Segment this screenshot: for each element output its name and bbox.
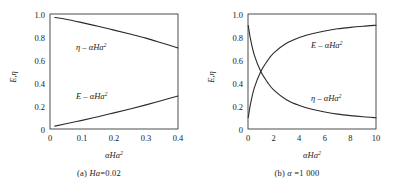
panel-b-label-eta-sup: 2 xyxy=(339,93,342,99)
panel-a-label-eta: η – αHa2 xyxy=(76,42,107,52)
panel-a-label-eta-base: η – αHa xyxy=(76,42,104,52)
panel-a-xtick-3: 0.3 xyxy=(141,133,152,143)
panel-a-ytick-4: 0.2 xyxy=(34,102,45,112)
panel-a-caption-prefix: (a) xyxy=(77,168,87,178)
panel-b-ytick-5: 0 xyxy=(239,125,243,135)
panel-a-curve-E xyxy=(55,96,178,126)
panel-b-caption-prefix: (b) xyxy=(275,168,286,178)
panel-a-ytick-5: 0 xyxy=(41,125,45,135)
panel-a-label-E-base: E – αHa xyxy=(75,91,105,101)
panel-b-frame xyxy=(248,14,376,129)
panel-a-xlabel-sup: 2 xyxy=(120,150,123,156)
panel-a-xlabel: αHa2 xyxy=(105,150,123,160)
panel-b-label-E-sup: 2 xyxy=(340,40,343,46)
panel-a-ylabel: E,η xyxy=(8,71,18,84)
panel-a-ytick-1: 0.8 xyxy=(34,33,45,43)
panel-a-label-E: E – αHa2 xyxy=(75,91,108,101)
panel-a-xtick-2: 0.2 xyxy=(109,133,120,143)
panel-b-xlabel-sup: 2 xyxy=(318,150,321,156)
panel-b-xlabel: αHa2 xyxy=(303,150,321,160)
panel-a-label-E-sup: 2 xyxy=(105,91,108,97)
panel-a-ytick-0: 1.0 xyxy=(34,10,45,20)
panel-b-ytick-1: 0.8 xyxy=(232,33,243,43)
panel-a: 1.0 0.8 0.6 0.4 0.2 0 0 0.1 0.2 0.3 0.4 … xyxy=(0,0,198,193)
panel-b-label-eta-base: η – αHa xyxy=(311,93,339,103)
panel-b-xtick-2: 4 xyxy=(297,133,302,143)
panel-a-xtick-4: 0.4 xyxy=(173,133,184,143)
panel-b-xtick-5: 10 xyxy=(372,133,381,143)
panel-b-label-E: E – αHa2 xyxy=(310,40,343,50)
panel-a-caption-symbol: Ha xyxy=(89,168,100,178)
panel-b-svg: 1.0 0.8 0.6 0.4 0.2 0 0 2 4 6 8 10 E,η α… xyxy=(198,0,396,165)
panel-b-xtick-0: 0 xyxy=(246,133,250,143)
panel-a-svg: 1.0 0.8 0.6 0.4 0.2 0 0 0.1 0.2 0.3 0.4 … xyxy=(0,0,198,165)
figure-container: 1.0 0.8 0.6 0.4 0.2 0 0 0.1 0.2 0.3 0.4 … xyxy=(0,0,396,193)
panel-b-label-eta: η – αHa2 xyxy=(311,93,342,103)
panel-b-plot: 1.0 0.8 0.6 0.4 0.2 0 0 2 4 6 8 10 E,η α… xyxy=(198,0,396,165)
panel-a-label-eta-sup: 2 xyxy=(104,42,107,48)
panel-b-xtick-1: 2 xyxy=(271,133,275,143)
panel-b: 1.0 0.8 0.6 0.4 0.2 0 0 2 4 6 8 10 E,η α… xyxy=(198,0,396,193)
panel-a-ytick-2: 0.6 xyxy=(34,56,45,66)
panel-b-caption: (b) α =1 000 xyxy=(198,168,396,178)
panel-b-ytick-4: 0.2 xyxy=(232,102,243,112)
panel-b-ytick-3: 0.4 xyxy=(232,79,243,89)
panel-a-caption: (a) Ha=0.02 xyxy=(0,168,198,178)
panel-b-xlabel-base: αHa xyxy=(303,150,318,160)
panel-b-ytick-2: 0.6 xyxy=(232,56,243,66)
panel-b-label-E-base: E – αHa xyxy=(310,40,340,50)
panel-a-caption-value: =0.02 xyxy=(100,168,121,178)
panel-a-xtick-0: 0 xyxy=(48,133,52,143)
panel-a-frame xyxy=(50,14,178,129)
panel-b-caption-value: =1 000 xyxy=(294,168,319,178)
panel-b-ytick-0: 1.0 xyxy=(232,10,243,20)
panel-a-curve-eta xyxy=(55,17,178,47)
panel-a-ytick-3: 0.4 xyxy=(34,79,45,89)
panel-b-xtick-4: 8 xyxy=(348,133,352,143)
panel-a-plot: 1.0 0.8 0.6 0.4 0.2 0 0 0.1 0.2 0.3 0.4 … xyxy=(0,0,198,165)
panel-a-xlabel-base: αHa xyxy=(105,150,120,160)
panel-b-xtick-3: 6 xyxy=(323,133,327,143)
panel-a-xtick-1: 0.1 xyxy=(77,133,88,143)
panel-b-ylabel: E,η xyxy=(206,71,216,84)
panel-b-caption-symbol: α xyxy=(287,168,292,178)
